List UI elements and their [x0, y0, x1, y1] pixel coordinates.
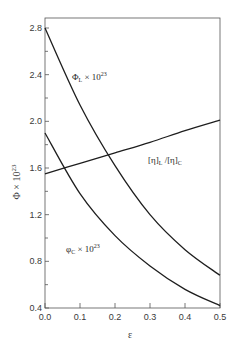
phi-c-curve [45, 133, 220, 306]
y-tick-label: 2.0 [29, 116, 42, 126]
y-tick-label: 0.8 [29, 256, 42, 266]
x-tick-label: 0.5 [214, 312, 227, 322]
y-axis-label: Φ × 1023 [10, 164, 22, 199]
x-tick-label: 0.1 [74, 312, 87, 322]
x-tick-label: 0.3 [144, 312, 157, 322]
x-tick-label: 0.2 [109, 312, 122, 322]
plot-frame [45, 18, 220, 308]
y-tick-label: 2.4 [29, 70, 42, 80]
chart: 0.40.81.21.62.02.42.8 0.00.10.20.30.40.5… [0, 0, 234, 350]
eta-ratio-curve [45, 120, 220, 174]
x-tick-label: 0.0 [39, 312, 52, 322]
curve-label-phi-c: φC × 1023 [66, 243, 100, 255]
y-axis: 0.40.81.21.62.02.42.8 [29, 23, 49, 313]
x-axis: 0.00.10.20.30.40.5 [39, 303, 227, 322]
curves [45, 28, 220, 306]
y-tick-label: 1.2 [29, 210, 42, 220]
curve-label-eta-ratio: [η]L /[η]C [148, 155, 182, 166]
x-tick-label: 0.4 [179, 312, 192, 322]
phi-l-curve [45, 28, 220, 275]
y-tick-label: 1.6 [29, 163, 42, 173]
y-tick-label: 2.8 [29, 23, 42, 33]
x-axis-label: ε [128, 329, 132, 340]
curve-label-phi-l: ΦL × 1023 [72, 71, 107, 83]
